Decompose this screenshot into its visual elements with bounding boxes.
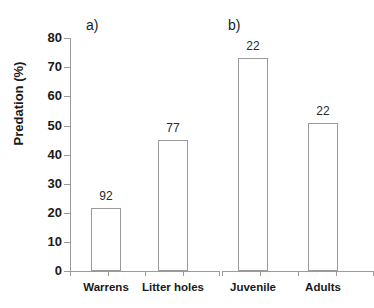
bar-warrens[interactable] [91, 208, 121, 271]
y-tick-label-20: 20 [32, 206, 62, 219]
y-tick-label-70: 70 [32, 60, 62, 73]
panel-b-label: b) [228, 18, 240, 32]
bar-litter-holes-value: 77 [153, 122, 193, 134]
y-tick-label-80: 80 [32, 31, 62, 44]
panel-a-x-tick-4 [219, 271, 220, 276]
y-tick-label-40: 40 [32, 148, 62, 161]
panel-a: a) 92 Warrens 77 Litter holes [70, 0, 220, 308]
panel-a-x-tick-0 [70, 271, 71, 276]
panel-a-x-tick-2 [145, 271, 146, 276]
bar-juvenile[interactable] [238, 58, 268, 271]
panel-a-label: a) [86, 18, 98, 32]
panel-b: b) 22 Juvenile 22 Adults [222, 0, 374, 308]
bar-adults[interactable] [308, 123, 338, 271]
y-axis-title: Predation (%) [11, 24, 26, 184]
y-tick-label-10: 10 [32, 235, 62, 248]
y-tick-label-30: 30 [32, 177, 62, 190]
bar-warrens-value: 92 [86, 190, 126, 202]
panel-a-x-tick-3 [183, 271, 184, 276]
bar-litter-holes[interactable] [158, 140, 188, 271]
bar-chart-figure: Predation (%) 80 70 60 50 40 30 20 10 0 … [0, 0, 374, 308]
x-label-juvenile: Juvenile [213, 282, 293, 294]
y-tick-label-60: 60 [32, 89, 62, 102]
panel-b-x-tick-0 [222, 271, 223, 276]
panel-b-x-tick-3 [336, 271, 337, 276]
panel-b-x-tick-2 [298, 271, 299, 276]
panel-b-x-tick-1 [260, 271, 261, 276]
y-tick-label-0: 0 [32, 264, 62, 277]
x-label-litter-holes: Litter holes [133, 282, 213, 294]
x-label-adults: Adults [283, 282, 363, 294]
y-tick-label-50: 50 [32, 119, 62, 132]
bar-juvenile-value: 22 [233, 40, 273, 52]
panel-a-x-tick-1 [108, 271, 109, 276]
bar-adults-value: 22 [303, 105, 343, 117]
